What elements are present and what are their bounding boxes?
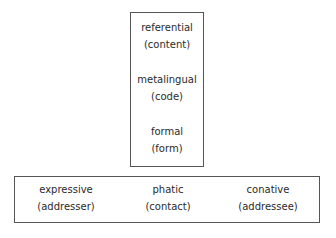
function-name: expressive [16,181,116,198]
function-conative: conative (addressee) [218,181,318,215]
function-factor: (addresser) [16,198,116,215]
function-metalingual: metalingual (code) [131,71,203,105]
vertical-functions-box: referential (content) metalingual (code)… [130,12,204,167]
function-factor: (content) [131,36,203,53]
function-factor: (form) [131,140,203,157]
function-name: metalingual [131,71,203,88]
function-phatic: phatic (contact) [118,181,218,215]
function-name: phatic [118,181,218,198]
function-name: referential [131,19,203,36]
function-name: formal [131,123,203,140]
function-factor: (code) [131,88,203,105]
horizontal-functions-box: expressive (addresser) phatic (contact) … [14,176,320,223]
function-formal: formal (form) [131,123,203,157]
function-name: conative [218,181,318,198]
function-factor: (contact) [118,198,218,215]
function-factor: (addressee) [218,198,318,215]
function-referential: referential (content) [131,19,203,53]
function-expressive: expressive (addresser) [16,181,116,215]
